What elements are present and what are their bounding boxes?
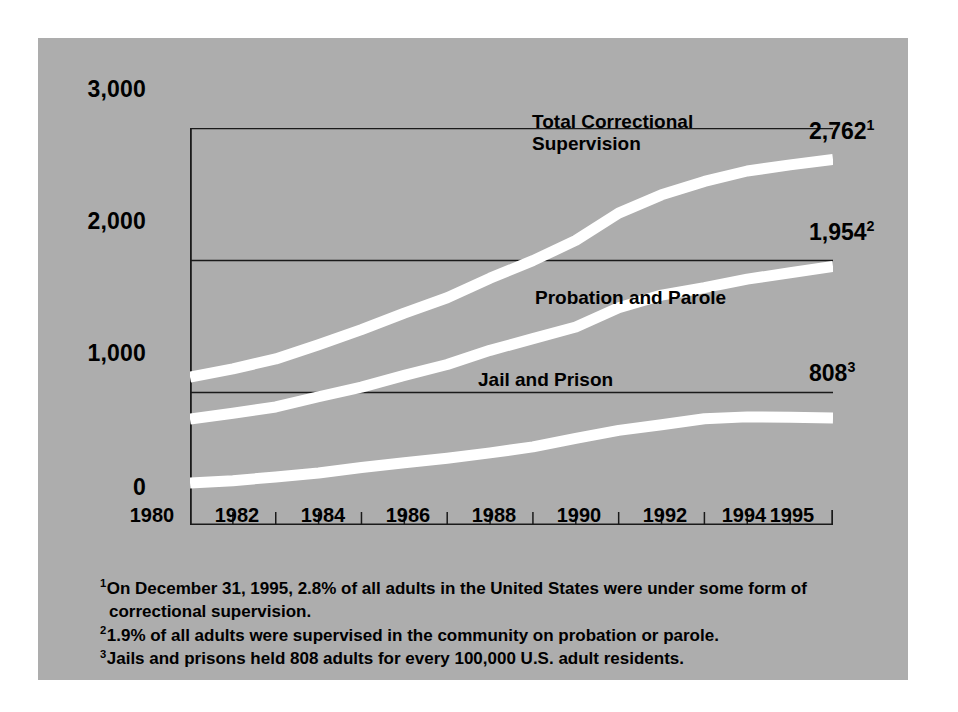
y-tick-label-0: 0 (64, 474, 146, 501)
footnote-marker: 2 (100, 624, 106, 636)
end-label-probation-and-parole: 1,9542 (809, 219, 875, 246)
footnote-text: Jails and prisons held 808 adults for ev… (107, 649, 684, 668)
end-label-jail-and-prison: 8083 (809, 360, 855, 387)
footnote-text: On December 31, 1995, 2.8% of all adults… (107, 579, 807, 598)
series-lines (190, 160, 833, 483)
x-tick-label-1984: 1984 (283, 504, 363, 527)
series-label-jail-and-prison: Jail and Prison (478, 369, 613, 391)
end-label-footnote-marker: 1 (867, 117, 875, 133)
series-label-total-correctional-supervision: Total Correctional Supervision (532, 111, 693, 156)
series-line-jail-and-prison (190, 417, 833, 483)
end-label-footnote-marker: 3 (847, 359, 855, 375)
footnote-text: 1.9% of all adults were supervised in th… (107, 626, 719, 645)
footnote-3: 3Jails and prisons held 808 adults for e… (100, 648, 910, 670)
x-tick-label-1990: 1990 (539, 504, 619, 527)
series-line-probation-and-parole (190, 266, 833, 419)
footnote-text: correctional supervision. (109, 602, 311, 621)
y-tick-label-3000: 3,000 (64, 76, 146, 103)
footnotes-block: 1On December 31, 1995, 2.8% of all adult… (100, 578, 910, 672)
chart-canvas (190, 128, 833, 525)
footnote-1-continuation: correctional supervision. (100, 601, 910, 623)
end-label-value: 2,762 (809, 118, 867, 144)
series-label-probation-and-parole: Probation and Parole (535, 287, 726, 309)
plot-area (190, 128, 833, 525)
y-tick-label-1000: 1,000 (64, 340, 146, 367)
footnote-marker: 3 (100, 648, 106, 660)
footnote-1: 1On December 31, 1995, 2.8% of all adult… (100, 578, 910, 600)
y-tick-label-2000: 2,000 (64, 208, 146, 235)
end-label-value: 1,954 (809, 219, 867, 245)
end-label-value: 808 (809, 360, 847, 386)
end-label-total-correctional-supervision: 2,7621 (809, 118, 875, 145)
footnote-2: 21.9% of all adults were supervised in t… (100, 625, 910, 647)
x-tick-label-1992: 1992 (625, 504, 705, 527)
x-tick-label-1988: 1988 (454, 504, 534, 527)
chart-figure: 3,000 2,000 1,000 0 1980 1982 1984 1986 … (0, 0, 958, 712)
chart-panel: 3,000 2,000 1,000 0 1980 1982 1984 1986 … (38, 38, 908, 680)
end-label-footnote-marker: 2 (867, 218, 875, 234)
x-tick-label-1995: 1995 (752, 504, 832, 527)
x-tick-label-1982: 1982 (197, 504, 277, 527)
x-tick-label-1980: 1980 (112, 504, 192, 527)
x-tick-label-1986: 1986 (368, 504, 448, 527)
footnote-marker: 1 (100, 577, 106, 589)
